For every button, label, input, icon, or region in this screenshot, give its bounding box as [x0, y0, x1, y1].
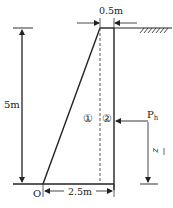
lever-arm-dimension: [140, 122, 158, 184]
origin-label: O: [33, 188, 41, 199]
ground-surface: [114, 28, 172, 33]
svg-text:z: z: [151, 147, 161, 153]
height-label: 5m: [4, 99, 20, 110]
region-2-label: ②: [102, 112, 112, 125]
region-1-label: ①: [83, 112, 93, 125]
soil-hatch-icon: [140, 28, 168, 33]
top-width-dimension: [77, 18, 137, 28]
force-label: Ph: [147, 109, 159, 122]
wall-outline: [13, 28, 114, 190]
base-width-label: 2.5m: [68, 186, 92, 197]
retaining-wall-diagram: 5m 0.5m ① ② Ph z 2.5m O: [0, 0, 173, 208]
lever-arm-label: z: [151, 147, 164, 155]
top-width-label: 0.5m: [99, 5, 123, 16]
